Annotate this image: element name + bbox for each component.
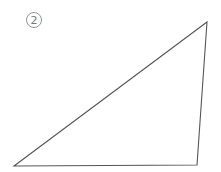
figure-label: 2 xyxy=(27,13,42,28)
triangle-shape xyxy=(14,22,207,166)
diagram-canvas: 2 xyxy=(0,0,221,172)
figure-number: 2 xyxy=(31,14,38,27)
